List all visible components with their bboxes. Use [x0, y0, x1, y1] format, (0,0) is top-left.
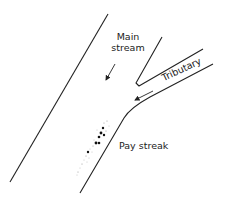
main-stream-label-line2: stream [108, 42, 148, 53]
pay-streak-label: Pay streak [119, 140, 168, 151]
tributary-lower-bank [80, 64, 213, 193]
pay-streak-deposit [77, 121, 110, 176]
tributary-flow-arrow [135, 91, 153, 100]
main-stream-flow-arrow [106, 64, 115, 80]
main-stream-label: Main stream [108, 31, 148, 53]
main-stream-label-line1: Main [108, 31, 148, 42]
main-stream-left-bank [10, 14, 108, 182]
